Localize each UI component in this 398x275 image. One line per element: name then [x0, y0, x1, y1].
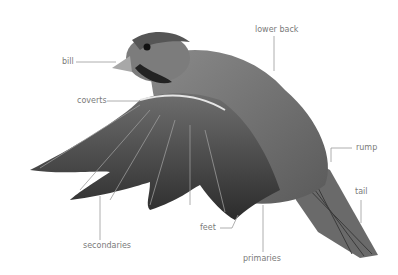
label-tail: tail [355, 187, 367, 197]
bill-shape [112, 56, 132, 72]
label-secondaries: primaries [243, 254, 281, 264]
label-rump: rump [356, 143, 377, 153]
rump-leader [331, 148, 352, 162]
label-lower-back: lower back [255, 25, 298, 35]
label-coverts: coverts [77, 96, 107, 106]
bird-anatomy-diagram: bill lower back coverts rump tail feet p… [0, 0, 398, 275]
label-feet: feet [200, 223, 216, 233]
label-primaries: secondaries [83, 241, 131, 251]
bird-illustration [0, 0, 398, 275]
label-bill: bill [62, 57, 74, 67]
eye [144, 44, 151, 51]
